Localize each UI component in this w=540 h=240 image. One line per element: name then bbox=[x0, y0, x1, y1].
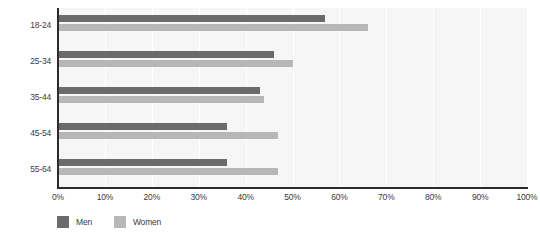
bar-group bbox=[58, 80, 527, 116]
gridline bbox=[527, 8, 528, 188]
x-axis-tick-100%: 100% bbox=[507, 192, 540, 202]
bar-women-18-24[interactable] bbox=[58, 24, 368, 31]
y-axis-category-labels: 18-2425-3435-4445-5455-64 bbox=[0, 8, 51, 188]
y-axis-label-18-24: 18-24 bbox=[1, 20, 51, 30]
x-axis-tick-50%: 50% bbox=[273, 192, 313, 202]
x-axis-tick-0%: 0% bbox=[38, 192, 78, 202]
x-axis-tick-70%: 70% bbox=[366, 192, 406, 202]
bar-women-45-54[interactable] bbox=[58, 132, 278, 139]
x-axis-tick-labels: 0%10%20%30%40%50%60%70%80%90%100% bbox=[0, 192, 540, 206]
legend-swatch-women-icon bbox=[114, 216, 126, 228]
x-axis-tick-30%: 30% bbox=[179, 192, 219, 202]
x-axis-tick-20%: 20% bbox=[132, 192, 172, 202]
x-axis-tick-80%: 80% bbox=[413, 192, 453, 202]
bar-women-35-44[interactable] bbox=[58, 96, 264, 103]
legend-swatch-men-icon bbox=[57, 216, 69, 228]
x-axis-tick-40%: 40% bbox=[226, 192, 266, 202]
y-axis-label-35-44: 35-44 bbox=[1, 92, 51, 102]
x-axis-tick-60%: 60% bbox=[319, 192, 359, 202]
legend-label-men: Men bbox=[76, 217, 92, 227]
legend-item-men[interactable]: Men bbox=[57, 216, 92, 228]
x-axis-tick-90%: 90% bbox=[460, 192, 500, 202]
bar-women-55-64[interactable] bbox=[58, 168, 278, 175]
bar-men-35-44[interactable] bbox=[58, 87, 260, 94]
bar-group bbox=[58, 116, 527, 152]
bar-group bbox=[58, 8, 527, 44]
bar-men-45-54[interactable] bbox=[58, 123, 227, 130]
legend-label-women: Women bbox=[133, 217, 161, 227]
y-axis-label-45-54: 45-54 bbox=[1, 128, 51, 138]
bar-group bbox=[58, 44, 527, 80]
bar-women-25-34[interactable] bbox=[58, 60, 293, 67]
chart-legend: MenWomen bbox=[57, 214, 183, 230]
y-axis-line bbox=[57, 8, 59, 188]
plot-area bbox=[58, 8, 527, 188]
y-axis-label-25-34: 25-34 bbox=[1, 56, 51, 66]
bar-men-55-64[interactable] bbox=[58, 159, 227, 166]
bar-chart: 18-2425-3435-4445-5455-64 0%10%20%30%40%… bbox=[0, 0, 540, 240]
bar-men-25-34[interactable] bbox=[58, 51, 274, 58]
x-axis-line bbox=[57, 187, 528, 189]
bar-group bbox=[58, 152, 527, 188]
bar-men-18-24[interactable] bbox=[58, 15, 325, 22]
legend-item-women[interactable]: Women bbox=[114, 216, 161, 228]
x-axis-tick-10%: 10% bbox=[85, 192, 125, 202]
y-axis-label-55-64: 55-64 bbox=[1, 164, 51, 174]
